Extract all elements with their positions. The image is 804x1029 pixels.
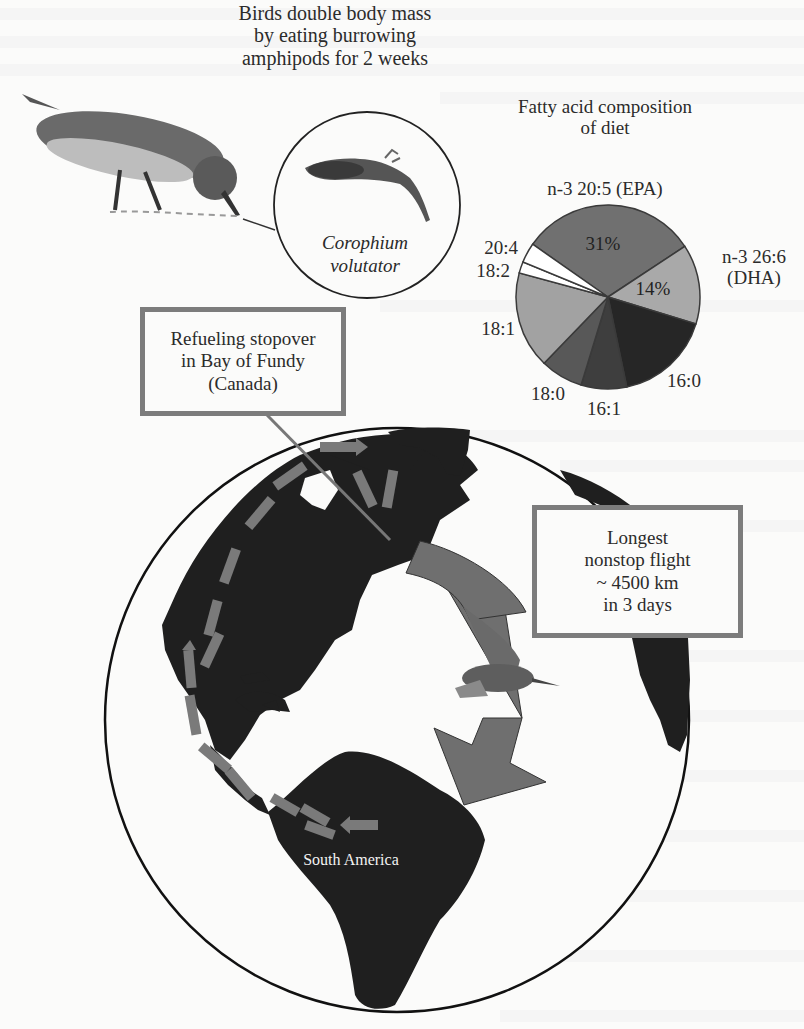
pie-label-18-2: 18:2 (470, 260, 510, 281)
pie-data-label-dha: 14% (628, 278, 678, 299)
bird-to-prey-connector (243, 219, 275, 230)
pie-chart-title: Fatty acid composition of diet (490, 96, 720, 139)
continent-label-south-america: South America (266, 851, 436, 869)
pie-label-20-4: 20:4 (478, 237, 518, 258)
pie-label-dha: n-3 26:6 (DHA) (706, 246, 802, 289)
figure-title: Birds double body mass by eating burrowi… (215, 2, 455, 69)
pie-label-18-1: 18:1 (475, 318, 515, 339)
stopover-callout-box: Refueling stopover in Bay of Fundy (Cana… (140, 307, 346, 416)
pie-label-16-0: 16:0 (664, 370, 704, 391)
pie-label-16-1: 16:1 (584, 398, 624, 419)
flight-callout-box: Longest nonstop flight ~ 4500 km in 3 da… (532, 505, 743, 638)
prey-species-name: Corophium volutator (300, 232, 430, 278)
sandpiper-feeding-icon (22, 94, 240, 216)
pie-data-label-epa: 31% (578, 233, 628, 254)
pie-label-epa: n-3 20:5 (EPA) (505, 178, 705, 199)
pie-label-18-0: 18:0 (528, 383, 568, 404)
